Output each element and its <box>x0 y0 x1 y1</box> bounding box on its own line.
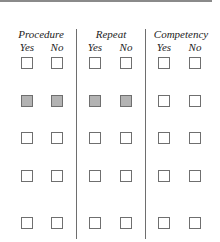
checkbox-competency-no-row-1[interactable] <box>189 57 201 69</box>
checkbox-procedure-no-row-4[interactable] <box>51 170 63 182</box>
group-title-competency: Competency <box>146 28 216 40</box>
checkbox-repeat-no-row-4[interactable] <box>120 170 132 182</box>
checkbox-repeat-no-row-2[interactable] <box>120 95 132 107</box>
checkbox-competency-yes-row-3[interactable] <box>158 132 170 144</box>
checkbox-procedure-yes-row-1[interactable] <box>21 57 33 69</box>
column-divider <box>145 29 146 239</box>
repeat-yes-label: Yes <box>83 41 107 53</box>
competency-no-label: No <box>183 41 207 53</box>
column-divider <box>76 29 77 239</box>
checkbox-repeat-yes-row-1[interactable] <box>89 57 101 69</box>
group-title-procedure: Procedure <box>10 28 72 40</box>
checkbox-procedure-yes-row-5[interactable] <box>21 217 33 229</box>
checkbox-procedure-no-row-5[interactable] <box>51 217 63 229</box>
checkbox-competency-yes-row-4[interactable] <box>158 170 170 182</box>
group-title-repeat: Repeat <box>78 28 144 40</box>
checkbox-repeat-no-row-3[interactable] <box>120 132 132 144</box>
top-rule <box>0 0 212 2</box>
checkbox-procedure-no-row-1[interactable] <box>51 57 63 69</box>
checkbox-competency-no-row-3[interactable] <box>189 132 201 144</box>
checkbox-competency-yes-row-5[interactable] <box>158 217 170 229</box>
checkbox-repeat-no-row-5[interactable] <box>120 217 132 229</box>
competency-yes-label: Yes <box>152 41 176 53</box>
checkbox-competency-yes-row-2[interactable] <box>158 95 170 107</box>
checkbox-procedure-yes-row-4[interactable] <box>21 170 33 182</box>
checkbox-procedure-yes-row-3[interactable] <box>21 132 33 144</box>
checkbox-repeat-no-row-1[interactable] <box>120 57 132 69</box>
repeat-no-label: No <box>114 41 138 53</box>
checkbox-competency-no-row-4[interactable] <box>189 170 201 182</box>
checkbox-procedure-no-row-3[interactable] <box>51 132 63 144</box>
procedure-no-label: No <box>45 41 69 53</box>
checkbox-procedure-no-row-2[interactable] <box>51 95 63 107</box>
checkbox-repeat-yes-row-2[interactable] <box>89 95 101 107</box>
checkbox-repeat-yes-row-5[interactable] <box>89 217 101 229</box>
checkbox-procedure-yes-row-2[interactable] <box>21 95 33 107</box>
checkbox-competency-yes-row-1[interactable] <box>158 57 170 69</box>
procedure-yes-label: Yes <box>15 41 39 53</box>
checkbox-competency-no-row-2[interactable] <box>189 95 201 107</box>
checkbox-repeat-yes-row-4[interactable] <box>89 170 101 182</box>
checkbox-competency-no-row-5[interactable] <box>189 217 201 229</box>
checkbox-repeat-yes-row-3[interactable] <box>89 132 101 144</box>
